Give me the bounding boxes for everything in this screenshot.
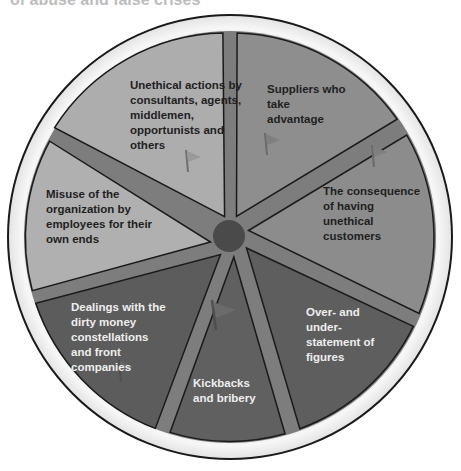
segment-label-suppliers: Suppliers who take advantage bbox=[267, 82, 347, 127]
segment-label-kickbacks: Kickbacks and bribery bbox=[193, 376, 273, 406]
segment-label-unethical-actions: Unethical actions by consultants, agents… bbox=[130, 78, 250, 153]
segment-label-dirty-money: Dealings with the dirty money constellat… bbox=[71, 300, 171, 375]
segment-label-misuse-by-employees: Misuse of the organization by employees … bbox=[46, 187, 156, 247]
segment-label-misstatement: Over- and under-statement of figures bbox=[306, 305, 386, 365]
center-hub bbox=[213, 220, 245, 252]
segment-label-unethical-customers: The consequence of having unethical cust… bbox=[323, 184, 423, 244]
